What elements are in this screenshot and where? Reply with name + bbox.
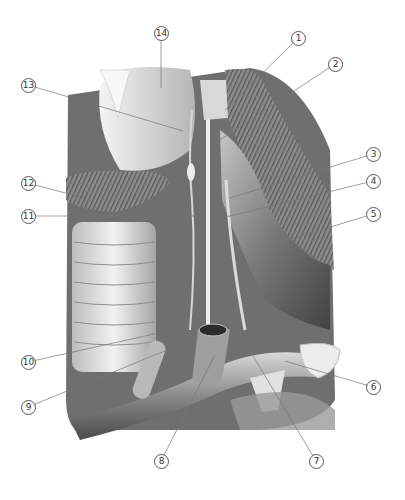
callout-6: 6 xyxy=(366,380,381,395)
neck-dissection-illustration xyxy=(0,0,405,500)
callout-10: 10 xyxy=(21,355,36,370)
callout-2: 2 xyxy=(328,57,343,72)
callout-9: 9 xyxy=(21,400,36,415)
callout-7: 7 xyxy=(309,454,324,469)
callout-12: 12 xyxy=(21,176,36,191)
jugular-lumen xyxy=(199,324,227,336)
callout-3: 3 xyxy=(366,147,381,162)
callout-13: 13 xyxy=(21,78,36,93)
callout-1: 1 xyxy=(291,31,306,46)
sympathetic-ganglion xyxy=(187,163,195,181)
cut-sternocleidomastoid-tendon xyxy=(200,80,228,120)
callout-14: 14 xyxy=(154,26,169,41)
illustration-body xyxy=(66,67,340,440)
callout-5: 5 xyxy=(366,207,381,222)
callout-4: 4 xyxy=(366,174,381,189)
callout-11: 11 xyxy=(21,209,36,224)
callout-8: 8 xyxy=(154,454,169,469)
